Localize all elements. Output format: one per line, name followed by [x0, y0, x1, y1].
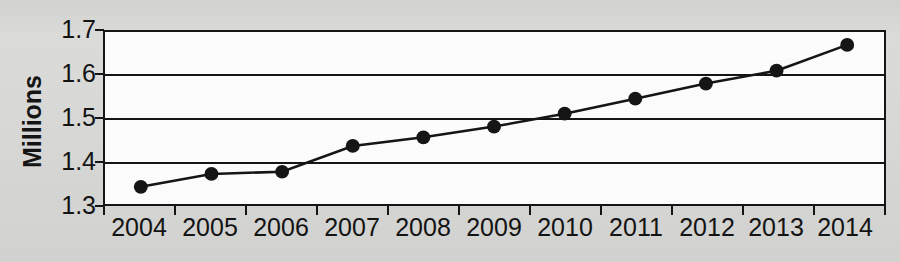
x-axis-tick-mark	[387, 206, 389, 215]
x-axis-tick-mark	[316, 206, 318, 215]
data-point	[840, 38, 854, 52]
data-point	[699, 77, 713, 91]
data-point	[770, 64, 784, 78]
y-tick-label: 1.5	[38, 105, 96, 130]
x-tick-label: 2009	[454, 215, 534, 240]
y-tick-label: 1.3	[38, 193, 96, 218]
x-tick-label: 2004	[99, 215, 179, 240]
data-point	[628, 92, 642, 106]
data-point	[134, 180, 148, 194]
data-point	[204, 167, 218, 181]
x-axis-tick-mark	[103, 206, 105, 215]
data-point	[416, 131, 430, 145]
x-tick-label: 2010	[525, 215, 605, 240]
x-axis-tick-mark	[174, 206, 176, 215]
plot-area	[103, 30, 886, 206]
y-tick-label: 1.7	[38, 17, 96, 42]
x-axis-tick-mark	[600, 206, 602, 215]
data-point	[346, 139, 360, 153]
x-tick-label: 2012	[667, 215, 747, 240]
x-axis-tick-mark	[884, 206, 886, 215]
x-axis-tick-mark	[529, 206, 531, 215]
data-point	[275, 165, 289, 179]
data-point	[558, 107, 572, 121]
line-chart: Millions 1.7 1.6 1.5 1.4 1.3 2004 2005 2…	[0, 0, 900, 262]
x-tick-label: 2006	[241, 215, 321, 240]
y-tick-label: 1.4	[38, 149, 96, 174]
x-tick-label: 2008	[383, 215, 463, 240]
x-axis-tick-mark	[813, 206, 815, 215]
x-axis-tick-mark	[742, 206, 744, 215]
series-line	[141, 45, 847, 187]
x-tick-label: 2007	[312, 215, 392, 240]
y-axis-tick-labels: 1.7 1.6 1.5 1.4 1.3	[34, 0, 96, 262]
x-tick-label: 2013	[736, 215, 816, 240]
x-axis-tick-mark	[245, 206, 247, 215]
data-series	[105, 32, 884, 204]
x-tick-label: 2014	[805, 215, 885, 240]
x-axis-tick-mark	[458, 206, 460, 215]
data-point	[487, 120, 501, 134]
y-tick-label: 1.6	[38, 61, 96, 86]
x-axis-tick-mark	[671, 206, 673, 215]
x-tick-label: 2005	[170, 215, 250, 240]
series-markers	[134, 38, 854, 194]
x-tick-label: 2011	[596, 215, 676, 240]
